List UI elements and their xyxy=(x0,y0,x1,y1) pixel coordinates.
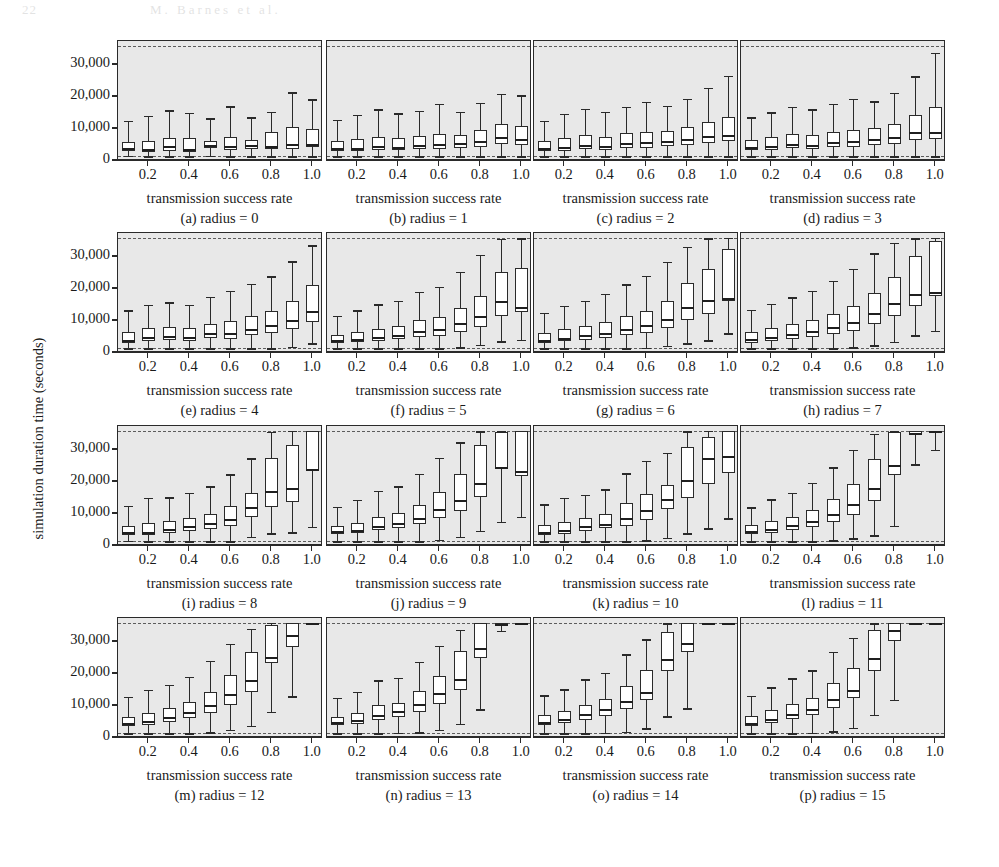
box-iqr xyxy=(806,320,819,337)
cap-lower xyxy=(165,156,174,157)
y-tick-mark xyxy=(112,95,117,96)
plot-area xyxy=(117,232,322,352)
whisker-lower xyxy=(585,149,586,156)
median-line xyxy=(702,623,715,625)
cap-upper xyxy=(435,104,444,105)
box-iqr xyxy=(372,517,385,531)
median-line xyxy=(454,143,467,145)
cap-upper xyxy=(144,116,153,117)
whisker-upper xyxy=(419,662,420,691)
whisker-upper xyxy=(792,493,793,517)
median-line xyxy=(661,141,674,143)
whisker-upper xyxy=(230,474,231,506)
cap-lower xyxy=(663,716,672,717)
cap-lower xyxy=(622,156,631,157)
whisker-upper xyxy=(646,639,647,669)
whisker-upper xyxy=(419,292,420,320)
median-line xyxy=(372,146,385,148)
whisker-lower xyxy=(398,717,399,733)
cap-lower xyxy=(394,541,403,542)
box-iqr xyxy=(163,138,176,151)
whisker-upper xyxy=(687,99,688,127)
whisker-lower xyxy=(439,704,440,730)
cap-upper xyxy=(415,111,424,112)
whisker-upper xyxy=(210,661,211,692)
whisker-upper xyxy=(751,117,752,139)
whisker-upper xyxy=(378,109,379,137)
whisker-lower xyxy=(935,432,936,450)
cap-lower xyxy=(394,156,403,157)
cap-upper xyxy=(622,284,631,285)
cap-lower xyxy=(415,348,424,349)
whisker-lower xyxy=(894,641,895,699)
cap-lower xyxy=(247,537,256,538)
whisker-lower xyxy=(833,708,834,731)
whisker-lower xyxy=(439,336,440,348)
x-tick-label: 1.0 xyxy=(287,358,337,375)
reference-line xyxy=(741,46,944,47)
whisker-upper xyxy=(812,670,813,698)
whisker-upper xyxy=(771,499,772,521)
cap-lower xyxy=(788,348,797,349)
cap-lower xyxy=(165,348,174,349)
y-tick-mark xyxy=(112,255,117,256)
cap-upper xyxy=(601,112,610,113)
cap-lower xyxy=(540,348,549,349)
median-line xyxy=(265,491,278,493)
whisker-upper xyxy=(626,654,627,685)
median-line xyxy=(620,329,633,331)
median-line xyxy=(515,139,528,141)
box-iqr xyxy=(888,124,901,144)
box-iqr xyxy=(579,705,592,720)
median-line xyxy=(122,148,135,150)
plot-area xyxy=(326,232,531,352)
box-iqr xyxy=(224,321,237,338)
cap-lower xyxy=(144,156,153,157)
whisker-upper xyxy=(544,121,545,141)
whisker-upper xyxy=(646,276,647,311)
whisker-upper xyxy=(728,238,729,250)
box-iqr xyxy=(827,132,840,147)
cap-upper xyxy=(911,76,920,77)
median-line xyxy=(929,431,942,433)
whisker-lower xyxy=(521,312,522,340)
cap-upper xyxy=(333,316,342,317)
y-tick-label: 0 xyxy=(22,342,110,359)
box-iqr xyxy=(827,314,840,334)
cap-lower xyxy=(663,156,672,157)
cap-upper xyxy=(333,507,342,508)
cap-upper xyxy=(247,458,256,459)
box-iqr xyxy=(847,668,860,698)
panel-caption: (g) radius = 6 xyxy=(523,402,748,419)
median-line xyxy=(433,144,446,146)
whisker-lower xyxy=(833,522,834,541)
whisker-upper xyxy=(605,489,606,514)
whisker-upper xyxy=(460,272,461,308)
whisker-upper xyxy=(564,498,565,522)
median-line xyxy=(888,303,901,305)
y-tick-label: 30,000 xyxy=(22,631,110,648)
cap-lower xyxy=(165,733,174,734)
cap-upper xyxy=(747,507,756,508)
cap-upper xyxy=(165,685,174,686)
whisker-upper xyxy=(337,698,338,717)
y-tick-mark xyxy=(112,127,117,128)
box-iqr xyxy=(245,652,258,691)
y-tick-label: 0 xyxy=(22,150,110,167)
cap-upper xyxy=(601,673,610,674)
cap-upper xyxy=(890,93,899,94)
box-iqr xyxy=(474,130,487,147)
whisker-lower xyxy=(271,663,272,712)
median-line xyxy=(183,526,196,528)
whisker-upper xyxy=(521,238,522,268)
whisker-lower xyxy=(626,526,627,542)
whisker-upper xyxy=(874,101,875,128)
whisker-upper xyxy=(521,95,522,125)
median-line xyxy=(224,519,237,521)
cap-upper xyxy=(663,106,672,107)
y-tick-label: 10,000 xyxy=(22,118,110,135)
cap-upper xyxy=(144,498,153,499)
panel-caption: (h) radius = 7 xyxy=(730,402,955,419)
cap-lower xyxy=(931,450,940,451)
whisker-lower xyxy=(357,533,358,541)
